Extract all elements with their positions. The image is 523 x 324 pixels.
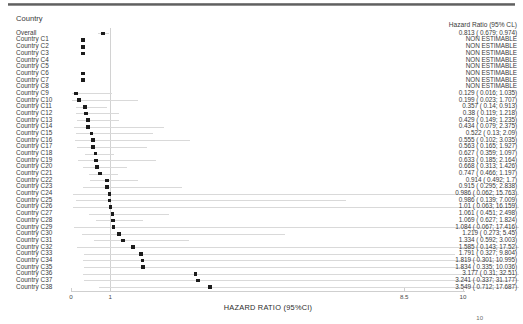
confidence-interval-line bbox=[77, 247, 519, 248]
table-row: Country C90.129 ( 0.016; 1.035) bbox=[0, 90, 523, 97]
point-estimate-marker bbox=[141, 259, 145, 263]
point-estimate-marker bbox=[77, 98, 81, 102]
axis-tick-label: 0 bbox=[69, 293, 72, 300]
axis-tick-mark bbox=[110, 288, 111, 292]
confidence-interval-line bbox=[84, 280, 519, 281]
point-estimate-marker bbox=[81, 38, 85, 42]
point-estimate-marker bbox=[81, 52, 85, 56]
table-row: Country C210.747 ( 0.466; 1.197) bbox=[0, 170, 523, 177]
confidence-interval-line bbox=[83, 274, 519, 275]
table-row: Country C100.199 ( 0.023; 1.707) bbox=[0, 97, 523, 104]
point-estimate-marker bbox=[91, 145, 95, 149]
table-row: Country C190.633 ( 0.185; 2.164) bbox=[0, 157, 523, 164]
point-estimate-marker bbox=[74, 92, 78, 96]
table-row: Country C200.668 ( 0.313; 1.426) bbox=[0, 164, 523, 171]
confidence-interval-line bbox=[89, 214, 169, 215]
table-row: Country C373.241 ( 0.337; 31.177) bbox=[0, 277, 523, 284]
confidence-interval-line bbox=[96, 220, 143, 221]
confidence-interval-line bbox=[76, 200, 345, 201]
confidence-interval-line bbox=[73, 194, 519, 195]
point-estimate-marker bbox=[86, 125, 90, 129]
point-estimate-marker bbox=[81, 78, 85, 82]
table-row: Country C240.986 ( 0.062; 15.763) bbox=[0, 190, 523, 197]
row-hazard-ratio-value: 3.549 ( 0.712; 17.687) bbox=[455, 283, 517, 290]
point-estimate-marker bbox=[139, 252, 143, 256]
point-estimate-marker bbox=[196, 279, 200, 283]
table-row: Country C383.549 ( 0.712; 17.687) bbox=[0, 284, 523, 291]
page-number: 10 bbox=[476, 315, 483, 321]
table-row: Country C180.627 ( 0.359; 1.097) bbox=[0, 150, 523, 157]
confidence-interval-line bbox=[90, 180, 137, 181]
point-estimate-marker bbox=[194, 272, 198, 276]
point-estimate-marker bbox=[109, 205, 113, 209]
hazard-ratio-column-header: Hazard Ratio (95% CL) bbox=[449, 21, 517, 28]
table-row: Country C130.429 ( 0.149; 1.235) bbox=[0, 117, 523, 124]
table-row: Country C291.084 ( 0.067; 17.416) bbox=[0, 224, 523, 231]
axis-tick-mark bbox=[463, 288, 464, 292]
point-estimate-marker bbox=[121, 239, 125, 243]
point-estimate-marker bbox=[91, 138, 95, 142]
confidence-interval-line bbox=[82, 234, 285, 235]
confidence-interval-line bbox=[83, 187, 183, 188]
confidence-interval-line bbox=[89, 174, 118, 175]
confidence-interval-line bbox=[78, 160, 156, 161]
table-row: Country C4NON ESTIMABLE bbox=[0, 57, 523, 64]
point-estimate-marker bbox=[105, 179, 109, 183]
point-estimate-marker bbox=[86, 118, 90, 122]
top-divider-rule bbox=[8, 3, 515, 6]
table-row: Country C120.38 ( 0.119; 1.218) bbox=[0, 110, 523, 117]
confidence-interval-line bbox=[76, 107, 106, 108]
confidence-interval-line bbox=[77, 120, 120, 121]
table-row: Country C7NON ESTIMABLE bbox=[0, 77, 523, 84]
point-estimate-marker bbox=[112, 225, 116, 229]
confidence-interval-line bbox=[83, 260, 502, 261]
axis-tick-label: 10 bbox=[460, 293, 467, 300]
table-row: Country C230.915 ( 0.295; 2.838) bbox=[0, 184, 523, 191]
confidence-interval-line bbox=[74, 227, 519, 228]
table-row: Overall0.813 ( 0.679; 0.974) bbox=[0, 30, 523, 37]
point-estimate-marker bbox=[81, 72, 85, 76]
table-row: Country C220.914 ( 0.492; 1.7) bbox=[0, 177, 523, 184]
table-row: Country C331.791 ( 0.327; 9.804) bbox=[0, 250, 523, 257]
point-estimate-marker bbox=[208, 285, 212, 289]
confidence-interval-line bbox=[76, 113, 119, 114]
table-row: Country C150.522 ( 0.13; 2.09) bbox=[0, 130, 523, 137]
table-row: Country C281.069 ( 0.627; 1.824) bbox=[0, 217, 523, 224]
table-row: Country C170.563 ( 0.165; 1.927) bbox=[0, 144, 523, 151]
table-row: Country C261.01 ( 0.063; 16.159) bbox=[0, 204, 523, 211]
axis-tick-label: 1 bbox=[108, 293, 111, 300]
row-country-label: Country C38 bbox=[16, 283, 52, 290]
point-estimate-marker bbox=[141, 265, 145, 269]
table-row: Country C6NON ESTIMABLE bbox=[0, 70, 523, 77]
forest-plot-rows: Overall0.813 ( 0.679; 0.974)Country C1NO… bbox=[0, 28, 523, 290]
point-estimate-marker bbox=[117, 232, 121, 236]
table-row: Country C1NON ESTIMABLE bbox=[0, 37, 523, 44]
table-row: Country C160.555 ( 0.102; 3.035) bbox=[0, 137, 523, 144]
table-row: Country C2NON ESTIMABLE bbox=[0, 43, 523, 50]
confidence-interval-line bbox=[77, 147, 146, 148]
table-row: Country C140.434 ( 0.079; 2.375) bbox=[0, 124, 523, 131]
point-estimate-marker bbox=[98, 172, 102, 176]
point-estimate-marker bbox=[90, 132, 94, 136]
point-estimate-marker bbox=[108, 199, 112, 203]
point-estimate-marker bbox=[81, 45, 85, 49]
point-estimate-marker bbox=[108, 192, 112, 196]
confidence-interval-line bbox=[83, 167, 127, 168]
point-estimate-marker bbox=[94, 159, 98, 163]
confidence-interval-line bbox=[85, 154, 114, 155]
point-estimate-marker bbox=[94, 152, 98, 156]
axis-tick-label: 8.5 bbox=[400, 293, 409, 300]
table-row: Country C321.585 ( 0.143; 17.52) bbox=[0, 244, 523, 251]
table-row: Country C301.219 ( 0.273; 5.45) bbox=[0, 230, 523, 237]
confidence-interval-line bbox=[73, 207, 519, 208]
x-axis-title: HAZARD RATIO (95%CI) bbox=[71, 303, 465, 312]
point-estimate-marker bbox=[101, 32, 105, 36]
axis-tick-mark bbox=[71, 288, 72, 292]
point-estimate-marker bbox=[95, 165, 99, 169]
table-row: Country C250.986 ( 0.139; 7.009) bbox=[0, 197, 523, 204]
country-column-header: Country bbox=[16, 14, 43, 23]
confidence-interval-line bbox=[94, 240, 189, 241]
point-estimate-marker bbox=[84, 112, 88, 116]
table-row: Country C311.334 ( 0.592; 3.003) bbox=[0, 237, 523, 244]
point-estimate-marker bbox=[111, 212, 115, 216]
